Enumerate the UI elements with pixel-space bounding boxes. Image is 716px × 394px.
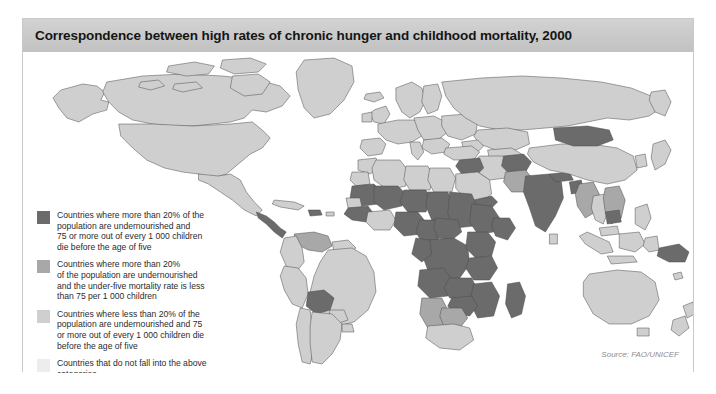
world-map: Countries where more than 20% of the pop… (23, 52, 693, 373)
region-philippines (635, 204, 651, 230)
region-ireland (362, 112, 372, 122)
region-uganda-kenya (466, 232, 496, 258)
region-iberia (360, 138, 386, 156)
legend-item-0: Countries where more than 20% of the pop… (37, 210, 233, 252)
region-alaska (53, 84, 109, 122)
region-new-zealand-north (683, 302, 693, 318)
region-cuba (272, 200, 304, 210)
region-car (434, 218, 462, 240)
region-british-isles (370, 106, 390, 124)
region-puerto-rico (326, 212, 334, 216)
region-greenland (296, 58, 354, 118)
legend-label-1: Countries where more than 20% of the pop… (57, 259, 205, 301)
region-tanzania (466, 256, 498, 280)
region-finland-baltic (422, 84, 442, 114)
legend-swatch-medium-gray (37, 260, 50, 273)
region-mongolia (553, 126, 613, 146)
legend-label-3: Countries that do not fall into the abov… (57, 358, 207, 373)
region-egypt (428, 168, 456, 192)
legend-item-1: Countries where more than 20% of the pop… (37, 259, 233, 301)
legend-item-3: Countries that do not fall into the abov… (37, 358, 233, 373)
region-australia (583, 270, 659, 324)
figure-title-bar: Correspondence between high rates of chr… (23, 19, 693, 52)
region-central-america (256, 212, 286, 238)
region-canada-arctic-1 (167, 62, 215, 76)
region-uruguay (342, 324, 354, 332)
region-indonesia-java (607, 256, 637, 264)
region-ecuador-peru (280, 266, 308, 308)
region-tasmania (637, 328, 649, 336)
region-italy (410, 142, 424, 160)
region-cambodia (605, 210, 621, 224)
region-algeria (372, 160, 408, 190)
region-sulawesi (643, 236, 659, 252)
region-western-sahara (350, 172, 370, 186)
region-borneo (619, 232, 645, 252)
region-turkey (444, 146, 480, 160)
legend-label-0: Countries where more than 20% of the pop… (57, 210, 204, 252)
legend-label-2: Countries where less than 20% of the pop… (57, 309, 204, 351)
region-new-zealand-south (671, 316, 689, 336)
region-madagascar (506, 282, 526, 318)
region-sri-lanka (549, 234, 557, 244)
region-russia (442, 76, 661, 130)
region-senegal-gambia (346, 198, 362, 208)
region-ivory-coast-ghana (366, 210, 396, 230)
region-japan (651, 140, 671, 170)
region-united-states (119, 122, 271, 178)
region-india (524, 174, 564, 232)
legend-swatch-light-gray (37, 310, 50, 323)
map-legend: Countries where more than 20% of the pop… (37, 210, 233, 373)
figure-panel: Correspondence between high rates of chr… (22, 18, 694, 372)
region-iceland (364, 92, 384, 102)
legend-swatch-very-light-gray (37, 359, 50, 372)
region-south-africa (426, 324, 474, 350)
region-papua-new-guinea (657, 244, 689, 262)
region-korea (635, 154, 647, 168)
legend-swatch-dark-gray (37, 211, 50, 224)
region-argentina (310, 312, 342, 364)
region-hispaniola (308, 210, 322, 216)
region-new-caledonia (673, 272, 683, 280)
legend-item-2: Countries where less than 20% of the pop… (37, 309, 233, 351)
region-canada-arctic-2 (220, 58, 266, 74)
page-title: Correspondence between high rates of chr… (23, 28, 572, 43)
source-attribution: Source: FAO/UNICEF (601, 350, 679, 359)
region-somalia (492, 218, 516, 240)
region-malaysia (599, 226, 619, 236)
region-scandinavia (396, 82, 426, 118)
